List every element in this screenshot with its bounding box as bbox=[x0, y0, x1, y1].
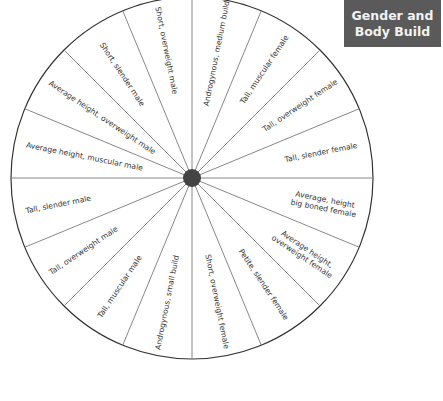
title-line-2: Body Build bbox=[355, 24, 431, 40]
title-line-1: Gender and bbox=[352, 8, 434, 24]
wheel-hub bbox=[183, 169, 201, 187]
title-box: Gender and Body Build bbox=[344, 0, 441, 47]
